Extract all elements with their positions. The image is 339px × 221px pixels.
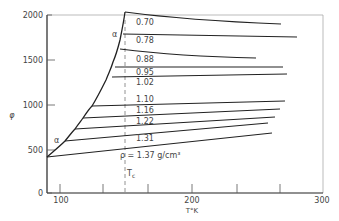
alpha-marker-upper: α	[112, 30, 117, 39]
alpha-marker-lower: α	[54, 136, 59, 145]
isochore-1.22	[75, 117, 275, 129]
series-label-0.88: 0.88	[136, 55, 154, 64]
series-label-1.10: 1.10	[136, 95, 154, 104]
isochore-1.31	[65, 123, 268, 141]
isochore-chart: 2000 1500 1000 500 0 100 200 300 T°K φ 0…	[0, 0, 339, 221]
y-tick-label-2000: 2000	[23, 11, 43, 20]
series-label-1.02: 1.02	[136, 78, 154, 87]
series-label-1.31: 1.31	[136, 134, 154, 143]
density-annotation: ρ = 1.37 g/cm³	[120, 151, 180, 160]
tc-sub: c	[132, 172, 135, 179]
y-tick-label-1500: 1500	[23, 56, 43, 65]
series-label-0.70: 0.70	[136, 18, 154, 27]
x-ticks	[60, 184, 280, 193]
y-ticks	[47, 15, 55, 193]
x-axis-title: T°K	[185, 207, 199, 215]
series-label-0.78: 0.78	[136, 36, 154, 45]
isochore-lines	[47, 12, 297, 157]
series-label-1.22: 1.22	[136, 117, 154, 126]
series-label-0.95: 0.95	[136, 68, 154, 77]
isochore-1.10	[92, 101, 285, 106]
y-tick-label-1000: 1000	[23, 101, 43, 110]
x-tick-label-100: 100	[53, 196, 68, 205]
y-tick-label-500: 500	[28, 146, 43, 155]
y-axis-title: φ	[9, 111, 15, 120]
isochore-1.16	[83, 109, 280, 118]
y-tick-label-0: 0	[38, 189, 43, 198]
series-label-1.16: 1.16	[136, 106, 154, 115]
x-tick-label-200: 200	[184, 196, 199, 205]
x-tick-label-300: 300	[314, 196, 329, 205]
tc-label: Tc	[126, 169, 135, 179]
